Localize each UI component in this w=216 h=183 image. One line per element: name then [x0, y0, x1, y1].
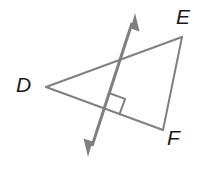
transversal-line	[84, 13, 140, 157]
arrowhead-down-icon	[84, 139, 93, 158]
triangle-def	[46, 37, 182, 130]
transversal-shaft	[92, 23, 132, 146]
arrowhead-up-icon	[131, 13, 140, 32]
vertex-label-d: D	[16, 74, 31, 95]
vertex-label-e: E	[176, 6, 190, 27]
side-ef	[163, 37, 182, 130]
vertex-label-f: F	[167, 127, 180, 148]
geometry-figure: D E F	[0, 0, 216, 183]
